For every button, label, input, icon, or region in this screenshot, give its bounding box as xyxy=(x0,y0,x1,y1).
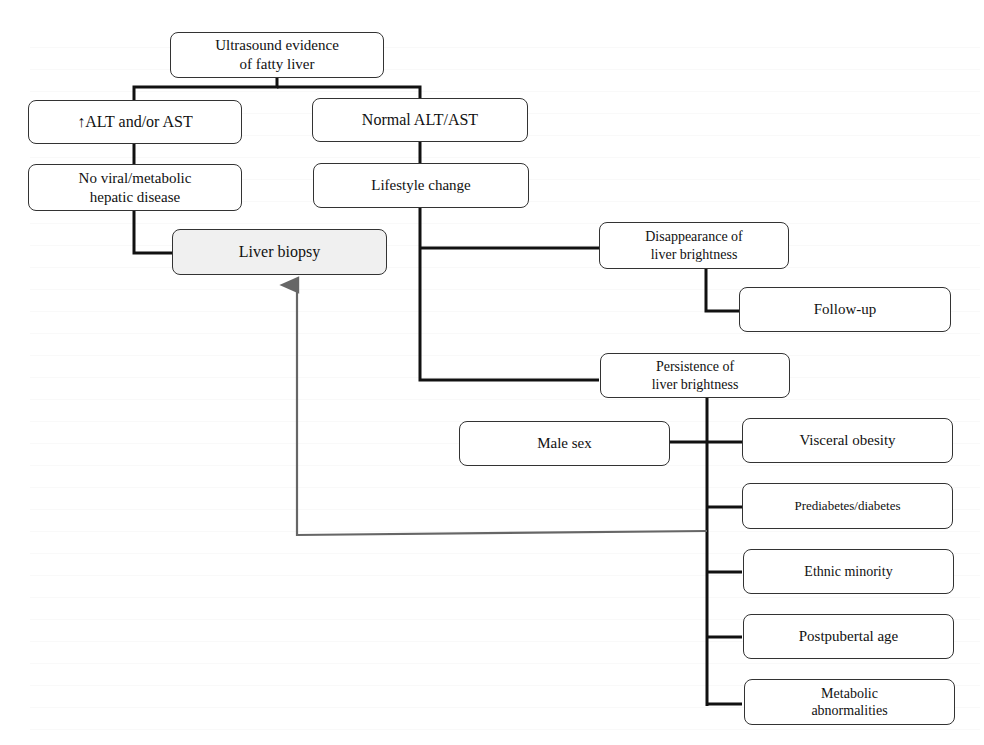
node-label: Male sex xyxy=(537,434,592,453)
node-label: Normal ALT/AST xyxy=(362,110,478,130)
node-label: Disappearance of liver brightness xyxy=(645,228,743,263)
node-label: Liver biopsy xyxy=(239,242,320,262)
node-label: Prediabetes/diabetes xyxy=(794,498,900,514)
node-label: Visceral obesity xyxy=(799,431,895,450)
node-follow-up: Follow-up xyxy=(739,287,951,332)
node-label: Persistence of liver brightness xyxy=(652,358,739,393)
node-postpubertal-age: Postpubertal age xyxy=(743,614,954,659)
node-persistence: Persistence of liver brightness xyxy=(600,353,790,398)
node-no-viral: No viral/metabolic hepatic disease xyxy=(28,164,242,211)
node-label: Ethnic minority xyxy=(804,563,892,581)
node-label: No viral/metabolic hepatic disease xyxy=(79,169,192,207)
node-liver-biopsy: Liver biopsy xyxy=(172,229,387,275)
node-metabolic-abnormalities: Metabolic abnormalities xyxy=(744,679,955,725)
node-prediabetes: Prediabetes/diabetes xyxy=(742,483,953,529)
node-label: Follow-up xyxy=(814,300,877,319)
node-label: Lifestyle change xyxy=(371,176,471,195)
node-elevated-alt-ast: ↑ALT and/or AST xyxy=(28,100,242,144)
node-normal-alt-ast: Normal ALT/AST xyxy=(312,98,528,142)
node-ultrasound: Ultrasound evidence of fatty liver xyxy=(170,32,384,78)
node-label: Ultrasound evidence of fatty liver xyxy=(215,36,339,74)
node-visceral-obesity: Visceral obesity xyxy=(742,418,953,463)
node-label: Postpubertal age xyxy=(799,627,899,646)
node-ethnic-minority: Ethnic minority xyxy=(743,549,954,594)
node-lifestyle-change: Lifestyle change xyxy=(313,163,529,208)
node-disappearance: Disappearance of liver brightness xyxy=(599,222,789,269)
node-male-sex: Male sex xyxy=(459,421,670,466)
feedback-arrow xyxy=(297,285,707,535)
node-label: Metabolic abnormalities xyxy=(811,685,887,720)
node-label: ↑ALT and/or AST xyxy=(77,112,193,132)
